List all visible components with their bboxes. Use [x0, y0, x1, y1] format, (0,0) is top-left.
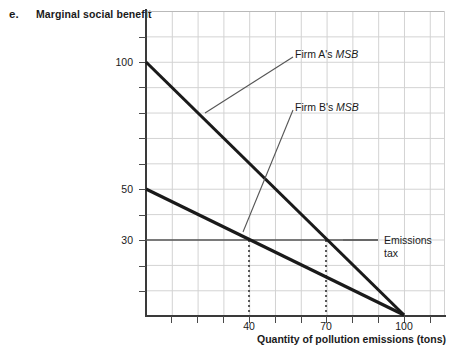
- chart-figure: e. Marginal social benefit 100 50 30 40 …: [0, 0, 451, 363]
- firm-b-msb-label: Firm B's MSB: [295, 101, 359, 113]
- firm-a-msb-label: Firm A's MSB: [295, 48, 358, 60]
- chart-lines-layer: [0, 0, 451, 363]
- firm-a-leader-line: [205, 57, 293, 113]
- firm-a-msb-line: [146, 62, 404, 315]
- emissions-tax-label-line2: tax: [384, 247, 432, 260]
- firm-a-msb-label-text: Firm A's: [295, 48, 336, 60]
- firm-b-msb-label-italic: MSB: [336, 101, 359, 113]
- firm-b-msb-label-text: Firm B's: [295, 101, 336, 113]
- emissions-tax-label-line1: Emissions: [384, 234, 432, 247]
- firm-b-leader-line: [243, 110, 293, 232]
- firm-a-msb-label-italic: MSB: [336, 48, 359, 60]
- firm-b-msb-line: [146, 189, 404, 315]
- emissions-tax-label: Emissions tax: [384, 234, 432, 259]
- x-axis-title: Quantity of pollution emissions (tons): [236, 333, 446, 346]
